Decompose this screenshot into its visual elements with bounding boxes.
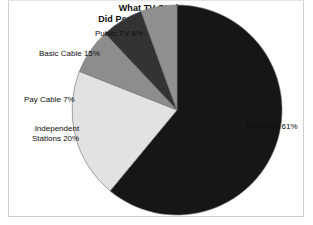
slice-label-independent-stations: Independent Stations 20% <box>32 124 79 143</box>
slice-label-independent-stations-line-2: Stations 20% <box>32 134 79 144</box>
slice-label-networks-text: Networks 61% <box>246 122 298 132</box>
pie-plot-area <box>0 0 313 225</box>
slice-label-pay-cable: Pay Cable 7% <box>24 95 75 105</box>
slice-label-public-tv: Public TV 4% <box>95 29 143 39</box>
slice-label-independent-stations-line-1: Independent <box>32 124 79 134</box>
slice-label-basic-cable-text: Basic Cable 15% <box>39 49 100 59</box>
slice-label-pay-cable-text: Pay Cable 7% <box>24 95 75 105</box>
pie-svg <box>0 0 313 225</box>
slice-label-public-tv-text: Public TV 4% <box>95 29 143 39</box>
pie-chart-figure: What TV Stations Did People Watch in 198… <box>0 0 313 225</box>
slice-label-basic-cable: Basic Cable 15% <box>39 49 100 59</box>
slice-label-networks: Networks 61% <box>246 122 298 132</box>
